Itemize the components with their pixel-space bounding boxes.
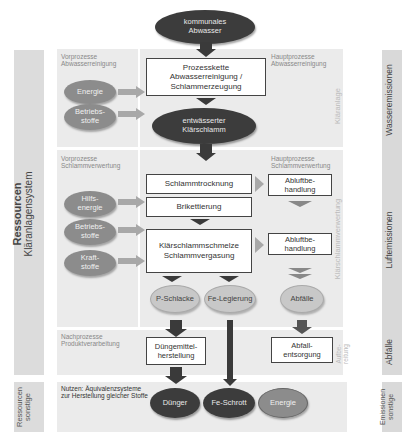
arrow-fe-shaft [227, 320, 233, 380]
arrow-abluft2-down-1 [288, 268, 312, 273]
label-aufbereitung: Aufbe- reitung [335, 336, 355, 372]
arrow-schmelze-left-down [162, 276, 182, 282]
arrow-abluft1-down [288, 201, 312, 207]
box-abfallentsorgung[interactable]: Abfall- entsorgung [271, 337, 333, 363]
arrow-to-abluft1 [255, 176, 265, 192]
resources-title: Ressourcen [11, 52, 23, 377]
arrow-schmelze-right-down [219, 276, 239, 282]
label-hauptprozesse-schlamm: Hauptprozesse Schlammverwertung [271, 155, 330, 170]
node-kommunales-abwasser[interactable]: kommunales Abwasser [155, 10, 255, 44]
arrow-abwasser-head [196, 49, 216, 57]
box-abluftbehandlung-1[interactable]: Abluftbe- handlung [268, 174, 332, 196]
arrow-brikettierung-down [190, 219, 210, 225]
waste-label: Abfälle [385, 327, 399, 377]
arrow-betriebsstoffe-schlamm-right [118, 224, 146, 236]
input-betriebsstoffe-schlamm[interactable]: Betriebs- stoffe [64, 219, 116, 245]
label-klaerschlammverwertung: Klärschlammverwertung [334, 189, 346, 289]
resources-subtitle: Kläranlagensystem [23, 52, 34, 377]
arrow-kraftstoffe-right [118, 255, 146, 267]
resources-other-label: Ressourcen sonstige [16, 382, 42, 432]
label-klaeranlage: Kläranlage [334, 86, 346, 126]
arrow-hilfsenergie-right [118, 196, 146, 208]
node-p-schlacke[interactable]: P-Schlacke [150, 285, 200, 313]
arrow-prozesskette-down [196, 98, 216, 105]
box-prozesskette[interactable]: Prozesskette Abwasserreinigung / Schlamm… [146, 58, 266, 96]
output-energie[interactable]: Energie [258, 388, 308, 418]
input-energie[interactable]: Energie [64, 80, 116, 104]
arrow-abluft2-down-2 [288, 274, 312, 279]
node-abfaelle[interactable]: Abfälle [280, 285, 324, 313]
label-nachprozesse: Nachprozesse Produktverarbeitung [61, 333, 120, 348]
label-vorprozesse-abwasser: Vorprozesse Abwasserreinigung [61, 53, 116, 68]
water-emissions-label: Wasseremissionen [385, 50, 399, 150]
output-fe-schrott[interactable]: Fe-Schrott [203, 388, 255, 418]
emissions-other-label: Emissionen sonstige [379, 382, 405, 432]
box-duengemittelherstellung[interactable]: Düngemittel- herstellung [146, 337, 206, 365]
output-duenger[interactable]: Dünger [150, 388, 200, 418]
arrow-klaerschlamm-head [196, 153, 216, 161]
box-schmelze[interactable]: Klärschlammschmelze Schlammvergasung [146, 229, 252, 273]
box-abluftbehandlung-2[interactable]: Abluftbe- handlung [268, 233, 332, 255]
arrow-betriebsstoffe-right [118, 108, 146, 120]
label-hauptprozesse-abwasser: Hauptprozesse Abwasserreinigung [271, 53, 326, 68]
box-brikettierung[interactable]: Brikettierung [146, 197, 252, 217]
air-emissions-label: Luftemissionen [385, 150, 399, 330]
input-hilfsenergie[interactable]: Hilfs- energie [64, 191, 116, 217]
input-kraftstoffe[interactable]: Kraft- stoffe [64, 250, 116, 276]
input-betriebsstoffe-abwasser[interactable]: Betriebs- stoffe [64, 104, 116, 130]
node-klaerschlamm[interactable]: entwässerter Klärschlamm [152, 108, 256, 144]
arrow-duenger-head [165, 376, 187, 384]
arrow-pschlacke-head [165, 329, 187, 337]
box-schlammtrocknung[interactable]: Schlammtrocknung [146, 174, 252, 194]
node-fe-legierung[interactable]: Fe-Legierung [204, 285, 256, 313]
label-nutzen: Nutzen: Äquivalenzsysteme zur Herstellun… [61, 385, 148, 400]
label-vorprozesse-schlamm: Vorprozesse Schlammverwertung [61, 155, 120, 170]
resources-band-label: Ressourcen Kläranlagensystem [11, 52, 47, 377]
arrow-fe-head [223, 379, 237, 386]
arrow-energie-right [118, 86, 146, 98]
arrow-abfaelle-head [292, 327, 312, 334]
arrow-to-abluft2 [255, 237, 265, 253]
